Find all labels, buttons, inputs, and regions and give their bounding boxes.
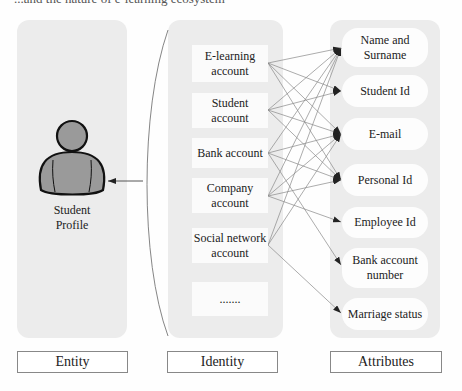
identity-social-network-account: Social networkaccount — [192, 228, 268, 263]
identity-bank-account: Bank account — [192, 138, 268, 168]
identity-e-learning-account: E-learningaccount — [192, 45, 268, 82]
attribute-e-mail: E-mail — [342, 118, 428, 150]
identity-more-placeholder: ....... — [192, 282, 268, 316]
attribute-bank-account-number: Bank accountnumber — [342, 248, 428, 288]
attribute-name-and-surname: Name andSurname — [342, 28, 428, 67]
attribute-marriage-status: Marriage status — [342, 298, 428, 330]
person-icon — [40, 121, 104, 195]
identity-student-account: Studentaccount — [192, 93, 268, 128]
attribute-student-id: Student Id — [342, 75, 428, 107]
identity-column-label: Identity — [167, 351, 278, 373]
entity-column-label: Entity — [17, 351, 128, 373]
identity-bracket — [147, 30, 168, 336]
student-profile-label: Student Profile — [40, 203, 104, 233]
attribute-personal-id: Personal Id — [342, 164, 428, 196]
identity-company-account: Companyaccount — [192, 178, 268, 213]
attribute-employee-id: Employee Id — [342, 207, 428, 238]
attributes-column-label: Attributes — [330, 351, 442, 373]
